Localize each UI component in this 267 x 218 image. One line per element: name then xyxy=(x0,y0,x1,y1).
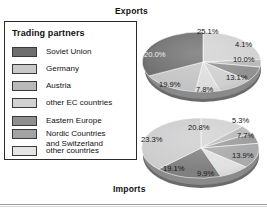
legend-label-austria: Austria xyxy=(46,81,71,91)
exports-label-other-countries: 4.1% xyxy=(235,40,253,49)
exports-label-austria: 13.1% xyxy=(226,73,248,82)
imports-label-other-ec: 9.9% xyxy=(197,169,215,178)
exports-pie-chart: 25.1% 4.1% 10.0% 13.1% 7.8% 19.9% 20.0% xyxy=(143,14,267,110)
imports-label-eastern-europe: 19.1% xyxy=(163,164,185,173)
imports-pie-chart: 20.8% 5.3% 7.7% 13.9% 9.9% 19.1% 23.3% xyxy=(139,98,263,196)
exports-label-soviet-union: 20.0% xyxy=(144,50,166,59)
legend-item-nordic-countries-and-switzerland: Nordic Countries and Switzerland xyxy=(12,129,106,140)
imports-label-germany: 20.8% xyxy=(188,123,210,132)
legend-swatch-other-ec-countries xyxy=(12,98,37,108)
bottom-divider xyxy=(0,204,267,205)
legend-swatch-nordic-countries-and-switzerland xyxy=(12,129,37,139)
exports-label-germany: 25.1% xyxy=(197,27,219,36)
legend-item-other-countries: other countries xyxy=(12,146,99,157)
legend-panel: Trading partners Soviet Union Germany Au… xyxy=(4,21,137,160)
legend-item-germany: Germany xyxy=(12,64,79,75)
imports-label-soviet-union: 23.3% xyxy=(141,135,163,144)
imports-label-austria: 13.9% xyxy=(232,151,254,160)
legend-item-eastern-europe: Eastern Europe xyxy=(12,116,102,127)
legend-swatch-austria xyxy=(12,81,37,91)
legend-label-soviet-union: Soviet Union xyxy=(46,47,91,57)
charts-area: Exports Imports xyxy=(139,0,267,206)
bottom-divider-shadow xyxy=(0,206,267,207)
legend-label-other-countries: other countries xyxy=(46,146,99,156)
legend-item-other-ec-countries: other EC countries xyxy=(12,98,112,109)
legend-swatch-soviet-union xyxy=(12,47,37,57)
legend-label-eastern-europe: Eastern Europe xyxy=(46,116,102,126)
legend-item-austria: Austria xyxy=(12,81,71,92)
legend-title: Trading partners xyxy=(12,28,85,38)
imports-label-other-countries: 5.3% xyxy=(232,116,250,125)
exports-label-nordic: 10.0% xyxy=(233,55,255,64)
legend-swatch-other-countries xyxy=(12,146,37,156)
legend-label-other-ec-countries: other EC countries xyxy=(46,98,112,108)
exports-label-other-ec: 7.8% xyxy=(196,85,214,94)
legend-item-soviet-union: Soviet Union xyxy=(12,47,91,58)
imports-label-nordic: 7.7% xyxy=(237,131,255,140)
exports-label-eastern-europe: 19.9% xyxy=(159,80,181,89)
legend-label-germany: Germany xyxy=(46,64,79,74)
legend-swatch-eastern-europe xyxy=(12,116,37,126)
legend-swatch-germany xyxy=(12,64,37,74)
